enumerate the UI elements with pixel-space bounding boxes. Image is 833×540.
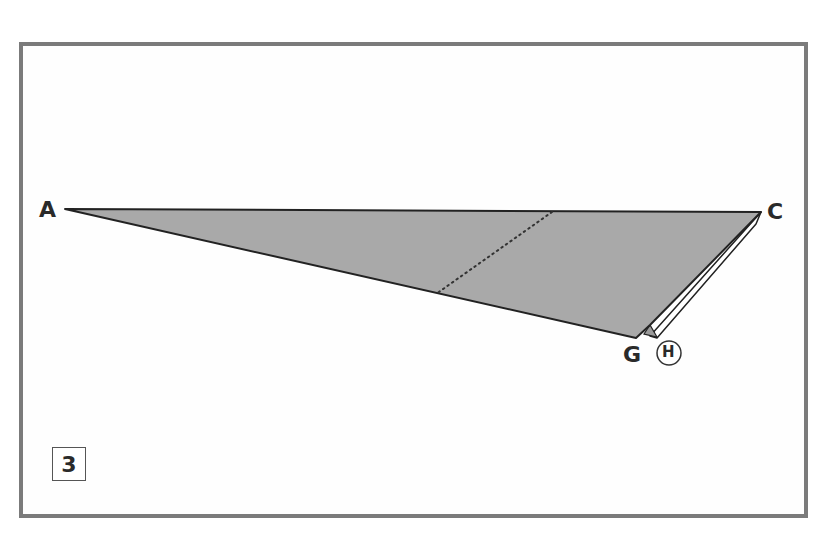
label-h: H xyxy=(662,345,675,360)
label-a: A xyxy=(39,199,56,221)
label-c: C xyxy=(767,201,783,223)
step-number-badge: 3 xyxy=(52,447,86,481)
label-g: G xyxy=(623,344,641,366)
step-number: 3 xyxy=(61,452,76,477)
fold-diagram xyxy=(0,0,833,540)
paper-shape xyxy=(65,209,761,338)
